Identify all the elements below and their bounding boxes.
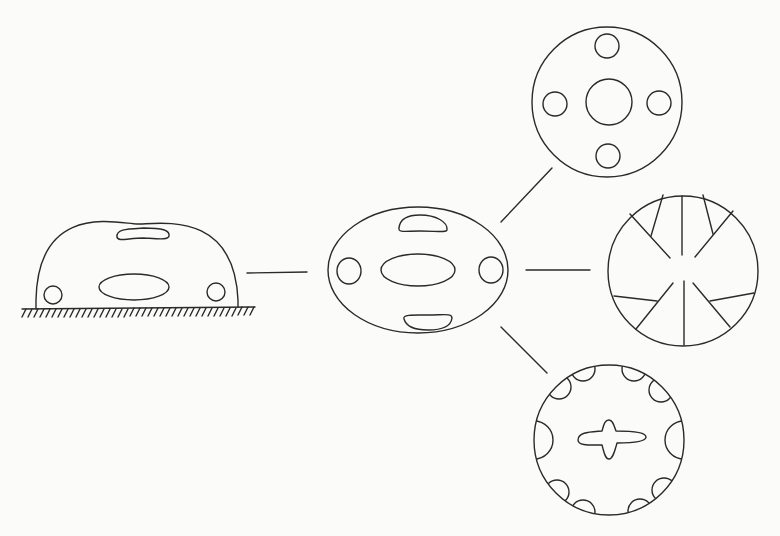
circle-radial-node [608, 195, 758, 346]
circle-scalloped-outline [534, 365, 684, 515]
dome-center-oval [99, 274, 169, 300]
circle-holes-node [532, 27, 682, 177]
bottom-hole [596, 144, 620, 168]
diagram-canvas [0, 0, 780, 536]
left-hole [543, 92, 567, 116]
edge-scallops [515, 357, 703, 524]
edge-dome-to-ellipse [247, 272, 307, 273]
radial-spokes [614, 195, 754, 345]
dome-left-hole [44, 286, 62, 304]
edge-ellipse-to-circle-scalloped [501, 327, 547, 373]
ellipse-center-oval [381, 254, 455, 286]
right-hole [647, 91, 671, 115]
ground-line [22, 307, 255, 309]
ellipse-top-slot [399, 215, 447, 232]
center-hole [586, 79, 632, 125]
ellipse-right-hole [479, 257, 503, 283]
cross-slot [578, 420, 646, 459]
dome-right-hole [207, 283, 225, 301]
dome-on-ground-node [22, 221, 255, 317]
ellipse-bottom-slot [404, 315, 452, 330]
circle-radial-outline [608, 196, 758, 346]
top-hole [595, 34, 619, 58]
circle-holes-outline [532, 27, 682, 177]
ellipse-body-node [328, 207, 508, 333]
edge-ellipse-to-circle-holes [501, 168, 552, 222]
circle-scalloped-node [515, 357, 703, 524]
dome-top-slot [117, 228, 169, 240]
ellipse-outline [328, 207, 508, 333]
ellipse-left-hole [337, 258, 361, 284]
